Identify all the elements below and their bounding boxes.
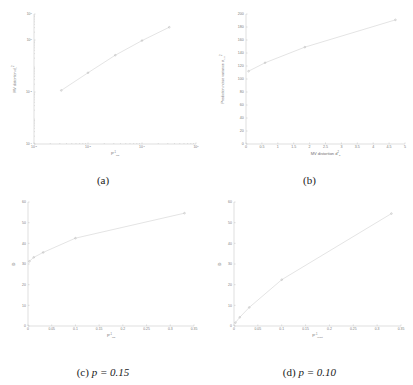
svg-text:5: 5 bbox=[404, 145, 406, 149]
svg-text:0.5: 0.5 bbox=[259, 145, 264, 149]
svg-text:50: 50 bbox=[228, 221, 232, 225]
chart-c-svg: 00.050.10.150.20.250.30.350102030405060P… bbox=[0, 192, 206, 358]
svg-text:100: 100 bbox=[238, 77, 244, 81]
panel-d-caption-math: p = 0.10 bbox=[298, 366, 336, 378]
svg-text:3.5: 3.5 bbox=[355, 145, 360, 149]
panel-b-caption: (b) bbox=[206, 174, 413, 186]
svg-text:0.2: 0.2 bbox=[120, 327, 125, 331]
svg-text:30: 30 bbox=[228, 262, 232, 266]
svg-text:180: 180 bbox=[238, 25, 244, 29]
panel-c-caption-math: p = 0.15 bbox=[92, 366, 130, 378]
svg-text:160: 160 bbox=[238, 38, 244, 42]
svg-text:3: 3 bbox=[340, 145, 342, 149]
svg-text:1: 1 bbox=[277, 145, 279, 149]
svg-text:2.5: 2.5 bbox=[323, 145, 328, 149]
chart-d-svg: 00.050.10.150.20.250.30.350102030405060P… bbox=[206, 192, 413, 358]
svg-text:0.15: 0.15 bbox=[302, 327, 309, 331]
svg-text:10-1: 10-1 bbox=[139, 145, 146, 149]
panel-d-caption: (d) p = 0.10 bbox=[206, 366, 413, 378]
svg-text:P-1ms: P-1ms bbox=[107, 332, 116, 339]
svg-text:0.35: 0.35 bbox=[191, 327, 198, 331]
svg-text:P-1ms: P-1ms bbox=[111, 150, 120, 157]
svg-text:10-2: 10-2 bbox=[85, 145, 92, 149]
panel-d: 00.050.10.150.20.250.30.350102030405060P… bbox=[206, 192, 413, 385]
svg-text:100: 100 bbox=[193, 145, 199, 149]
svg-text:0.1: 0.1 bbox=[73, 327, 78, 331]
svg-text:0.05: 0.05 bbox=[48, 327, 55, 331]
panel-c-plot: 00.050.10.150.20.250.30.350102030405060P… bbox=[0, 192, 206, 385]
svg-text:1.5: 1.5 bbox=[291, 145, 296, 149]
svg-text:200: 200 bbox=[238, 12, 244, 16]
svg-text:10: 10 bbox=[228, 304, 232, 308]
chart-a-svg: 10-310-210-110010-410-2100101P-1msMV dis… bbox=[0, 0, 206, 170]
svg-text:30: 30 bbox=[22, 262, 26, 266]
svg-text:0.2: 0.2 bbox=[327, 327, 332, 331]
panel-b-plot: 00.511.522.533.544.550204060801001201401… bbox=[206, 0, 413, 192]
svg-text:0.3: 0.3 bbox=[168, 327, 173, 331]
svg-text:0: 0 bbox=[24, 324, 26, 328]
svg-text:60: 60 bbox=[228, 200, 232, 204]
svg-text:0: 0 bbox=[242, 142, 244, 146]
svg-text:100: 100 bbox=[27, 38, 33, 42]
svg-text:MV distortion d2b: MV distortion d2b bbox=[311, 150, 341, 157]
svg-text:140: 140 bbox=[238, 51, 244, 55]
svg-text:0.35: 0.35 bbox=[398, 327, 405, 331]
svg-text:D: D bbox=[11, 262, 16, 265]
svg-text:0.05: 0.05 bbox=[255, 327, 262, 331]
panel-c: 00.050.10.150.20.250.30.350102030405060P… bbox=[0, 192, 206, 385]
svg-text:0: 0 bbox=[230, 324, 232, 328]
svg-text:4: 4 bbox=[372, 145, 374, 149]
svg-text:4.5: 4.5 bbox=[387, 145, 392, 149]
panel-a-plot: 10-310-210-110010-410-2100101P-1msMV dis… bbox=[0, 0, 206, 192]
svg-text:0.15: 0.15 bbox=[96, 327, 103, 331]
svg-text:0.1: 0.1 bbox=[279, 327, 284, 331]
svg-text:10-3: 10-3 bbox=[31, 145, 38, 149]
svg-text:20: 20 bbox=[22, 283, 26, 287]
svg-text:0: 0 bbox=[233, 327, 235, 331]
svg-text:10: 10 bbox=[22, 304, 26, 308]
svg-text:120: 120 bbox=[238, 64, 244, 68]
svg-text:50: 50 bbox=[22, 221, 26, 225]
svg-text:101: 101 bbox=[27, 12, 33, 16]
panel-d-caption-prefix: (d) bbox=[283, 366, 296, 378]
panel-b: 00.511.522.533.544.550204060801001201401… bbox=[206, 0, 413, 192]
svg-text:MV distortion db2: MV distortion db2 bbox=[11, 65, 18, 92]
svg-text:20: 20 bbox=[240, 129, 244, 133]
svg-text:40: 40 bbox=[240, 116, 244, 120]
panel-a-caption: (a) bbox=[0, 174, 206, 186]
svg-text:Prediction noise variance σp,: Prediction noise variance σp, e2 bbox=[219, 54, 226, 103]
svg-text:60: 60 bbox=[240, 103, 244, 107]
svg-text:20: 20 bbox=[228, 283, 232, 287]
chart-b-svg: 00.511.522.533.544.550204060801001201401… bbox=[206, 0, 413, 170]
svg-text:40: 40 bbox=[22, 242, 26, 246]
panel-c-caption-prefix: (c) bbox=[77, 366, 89, 378]
svg-text:10-2: 10-2 bbox=[26, 90, 33, 94]
svg-text:0.3: 0.3 bbox=[375, 327, 380, 331]
svg-text:0: 0 bbox=[27, 327, 29, 331]
svg-text:80: 80 bbox=[240, 90, 244, 94]
svg-text:2: 2 bbox=[309, 145, 311, 149]
panel-d-plot: 00.050.10.150.20.250.30.350102030405060P… bbox=[206, 192, 413, 385]
panel-c-caption: (c) p = 0.15 bbox=[0, 366, 206, 378]
figure-four-panel: 10-310-210-110010-410-2100101P-1msMV dis… bbox=[0, 0, 413, 385]
svg-text:0: 0 bbox=[245, 145, 247, 149]
panel-a: 10-310-210-110010-410-2100101P-1msMV dis… bbox=[0, 0, 206, 192]
svg-text:60: 60 bbox=[22, 200, 26, 204]
svg-text:0.25: 0.25 bbox=[350, 327, 357, 331]
svg-text:0.25: 0.25 bbox=[143, 327, 150, 331]
svg-text:40: 40 bbox=[228, 242, 232, 246]
svg-text:D: D bbox=[217, 262, 222, 265]
svg-text:P-1reset: P-1reset bbox=[312, 332, 323, 339]
